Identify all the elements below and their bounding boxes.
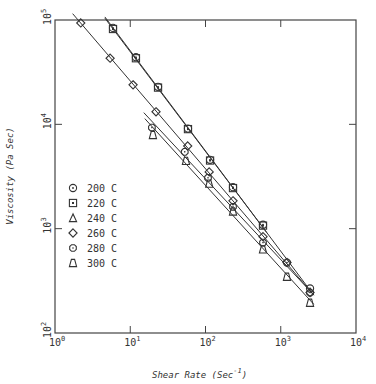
legend-label: 260 C xyxy=(87,228,117,239)
legend-label: 300 C xyxy=(87,258,117,269)
triangle-icon xyxy=(69,214,76,222)
legend-item: 240 C xyxy=(69,213,117,224)
legend-item: 300 C xyxy=(69,258,117,269)
trapezoid-icon xyxy=(69,259,76,266)
x-tick-label: 101 xyxy=(124,335,140,348)
y-tick-label: 102 xyxy=(40,322,53,338)
legend-label: 280 C xyxy=(87,243,117,254)
x-tick-label: 102 xyxy=(200,335,216,348)
legend-label: 240 C xyxy=(87,213,117,224)
data-point-trapezoid xyxy=(149,131,156,138)
axis-ticks xyxy=(55,20,356,333)
y-tick-label: 105 xyxy=(40,9,53,25)
fit-line xyxy=(144,113,314,295)
legend-item: 260 C xyxy=(69,228,117,239)
legend-label: 220 C xyxy=(87,198,117,209)
x-tick-label: 104 xyxy=(350,335,366,348)
diamond-icon xyxy=(69,229,77,237)
tick-labels: 100101102103104102103104105 xyxy=(40,9,366,348)
legend: 200 C220 C240 C260 C280 C300 C xyxy=(69,183,117,269)
x-tick-label: 103 xyxy=(275,335,291,348)
y-tick-label: 103 xyxy=(40,217,53,233)
y-tick-label: 104 xyxy=(40,113,53,129)
plot-frame xyxy=(55,20,356,333)
legend-label: 200 C xyxy=(87,183,117,194)
viscosity-chart: 100101102103104102103104105 200 C220 C24… xyxy=(0,0,376,384)
x-axis-title: Shear Rate (Sec-1) xyxy=(152,367,247,380)
fit-line xyxy=(145,119,314,305)
legend-item: 220 C xyxy=(69,198,117,209)
y-axis-title: Viscosity (Pa Sec) xyxy=(5,127,15,225)
legend-item: 200 C xyxy=(69,183,117,194)
legend-item: 280 C xyxy=(70,243,117,254)
